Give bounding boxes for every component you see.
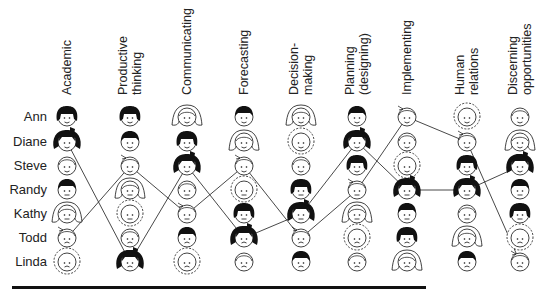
face-icon-linda: [54, 248, 80, 274]
face-icon-steve: [458, 205, 476, 223]
column-0: [52, 106, 82, 274]
face-grid: [0, 0, 549, 295]
face-icon-todd: [58, 227, 76, 247]
face-icon-randy: [511, 179, 529, 199]
face-icon-randy: [58, 179, 76, 199]
face-icon-ann: [234, 203, 255, 223]
face-icon-todd: [511, 251, 529, 271]
face-icon-linda: [174, 248, 200, 274]
face-icon-linda: [117, 200, 143, 226]
column-4: [286, 105, 316, 271]
face-icon-todd: [458, 131, 476, 151]
face-icon-kathy: [392, 250, 422, 271]
face-icon-kathy: [286, 105, 316, 126]
column-5: [342, 106, 372, 271]
face-icon-ann: [397, 227, 418, 247]
face-icon-todd: [121, 155, 139, 175]
face-icon-linda: [231, 176, 257, 202]
column-3: [229, 106, 259, 271]
face-icon-kathy: [452, 226, 482, 247]
face-icon-ann: [120, 106, 141, 126]
face-icon-linda: [394, 152, 420, 178]
face-icon-randy: [458, 251, 476, 271]
column-1: [115, 106, 145, 271]
column-8: [505, 108, 535, 271]
face-icon-ann: [510, 203, 531, 223]
face-icon-randy: [178, 227, 196, 247]
face-icon-diane: [506, 151, 534, 175]
face-icon-steve: [511, 108, 529, 126]
face-icon-kathy: [229, 130, 259, 151]
face-icon-steve: [121, 229, 139, 247]
face-icon-ann: [291, 179, 312, 199]
face-icon-randy: [121, 131, 139, 151]
face-icon-todd: [398, 106, 416, 126]
face-icon-linda: [344, 224, 370, 250]
column-2: [172, 105, 202, 274]
face-icon-kathy: [115, 178, 145, 199]
face-icon-kathy: [172, 105, 202, 126]
face-icon-diane: [53, 127, 81, 151]
face-icon-randy: [398, 203, 416, 223]
face-icon-ann: [57, 106, 78, 126]
face-icon-kathy: [52, 202, 82, 223]
face-icon-randy: [292, 251, 310, 271]
face-icon-todd: [235, 155, 253, 175]
face-icon-diane: [453, 175, 481, 199]
column-7: [452, 103, 482, 271]
face-icon-randy: [235, 106, 253, 126]
face-icon-todd: [348, 179, 366, 199]
face-icon-ann: [457, 155, 478, 175]
face-icon-ann: [347, 155, 368, 175]
face-icon-steve: [235, 253, 253, 271]
face-icon-kathy: [342, 202, 372, 223]
face-icon-steve: [178, 181, 196, 199]
face-icon-diane: [116, 247, 144, 271]
face-icon-steve: [58, 157, 76, 175]
face-icon-diane: [173, 151, 201, 175]
face-icon-steve: [398, 133, 416, 151]
face-icon-diane: [343, 127, 371, 151]
talent-ranking-diagram: AcademicProductive thinkingCommunicating…: [0, 0, 549, 295]
face-icon-ann: [177, 131, 198, 151]
face-icon-todd: [178, 203, 196, 223]
column-6: [392, 106, 422, 271]
baseline-rule: [12, 286, 426, 289]
face-icon-diane: [287, 199, 315, 223]
face-icon-steve: [348, 253, 366, 271]
face-icon-linda: [454, 103, 480, 129]
face-icon-kathy: [505, 130, 535, 151]
face-icon-linda: [507, 224, 533, 250]
face-icon-diane: [230, 223, 258, 247]
face-icon-steve: [292, 157, 310, 175]
face-icon-diane: [393, 175, 421, 199]
face-icon-randy: [348, 106, 366, 126]
face-icon-linda: [288, 128, 314, 154]
